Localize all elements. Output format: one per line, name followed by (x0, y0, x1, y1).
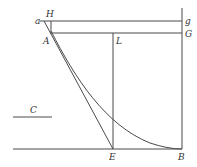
line-a-E (44, 21, 113, 149)
label-B: B (177, 152, 185, 162)
label-L: L (115, 36, 122, 46)
label-E: E (108, 152, 116, 162)
label-C: C (30, 105, 37, 115)
label-A: A (42, 36, 50, 46)
label-g: g (185, 16, 191, 26)
diagram-canvas: a H g A G L C E B (0, 0, 197, 167)
label-H: H (45, 9, 54, 19)
geometry-figure: a H g A G L C E B (0, 0, 197, 167)
label-G: G (185, 29, 192, 39)
curve-A-B (51, 31, 182, 149)
label-a: a (35, 16, 40, 26)
